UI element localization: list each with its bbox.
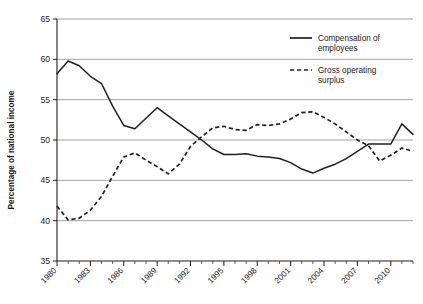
x-tick-label: 1986 xyxy=(106,266,126,286)
legend-label-surplus-line1: Gross operating xyxy=(318,66,377,75)
x-axis-ticks xyxy=(57,261,413,266)
y-axis-tick-labels: 35404550556065 xyxy=(41,14,51,266)
x-tick-label: 1983 xyxy=(73,266,93,286)
series-line-compensation-of-employees xyxy=(57,61,413,173)
y-axis-ticks xyxy=(53,19,57,261)
x-tick-label: 2001 xyxy=(273,266,293,286)
x-tick-label: 1989 xyxy=(139,266,159,286)
x-tick-label: 1995 xyxy=(206,266,226,286)
y-tick-label: 45 xyxy=(41,175,51,185)
data-series-group xyxy=(57,61,413,220)
legend-label-surplus-line2: surplus xyxy=(318,76,344,85)
x-tick-label: 2010 xyxy=(373,266,393,286)
y-axis-title: Percentage of national income xyxy=(7,90,16,209)
y-tick-label: 60 xyxy=(41,54,51,64)
x-axis: 1980198319861989199219951998200120042007… xyxy=(39,261,413,285)
y-tick-label: 40 xyxy=(41,216,51,226)
y-tick-label: 35 xyxy=(41,256,51,266)
y-axis: 35404550556065 xyxy=(41,14,57,266)
x-axis-tick-labels: 1980198319861989199219951998200120042007… xyxy=(39,266,392,286)
x-tick-label: 2007 xyxy=(340,266,360,286)
y-tick-label: 65 xyxy=(41,14,51,24)
x-tick-label: 1998 xyxy=(239,266,259,286)
y-axis-gridlines xyxy=(57,19,413,221)
chart-container: 35404550556065 1980198319861989199219951… xyxy=(0,0,423,304)
legend-label-compensation-line1: Compensation of xyxy=(318,34,381,43)
y-tick-label: 50 xyxy=(41,135,51,145)
legend-label-compensation-line2: employees xyxy=(318,44,358,53)
x-tick-label: 1992 xyxy=(173,266,193,286)
line-chart: 35404550556065 1980198319861989199219951… xyxy=(0,0,423,304)
x-tick-label: 1980 xyxy=(39,266,59,286)
y-tick-label: 55 xyxy=(41,95,51,105)
series-line-gross-operating-surplus xyxy=(57,112,413,220)
x-tick-label: 2004 xyxy=(306,266,326,286)
